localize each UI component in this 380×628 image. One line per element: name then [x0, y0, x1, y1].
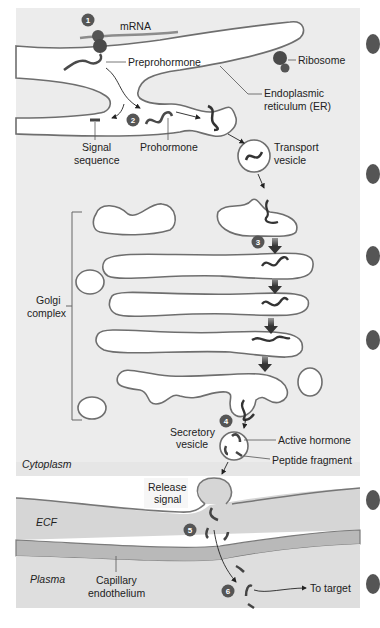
step-2-badge: 2: [131, 116, 136, 125]
step-3-badge: 3: [256, 238, 261, 247]
label-secretory-line2: vesicle: [176, 438, 208, 450]
cropped-marker-2: [366, 164, 380, 184]
step-5-badge: 5: [188, 526, 193, 535]
label-cytoplasm: Cytoplasm: [22, 458, 72, 470]
label-plasma: Plasma: [30, 573, 65, 585]
label-peptide-fragment: Peptide fragment: [272, 454, 352, 466]
secretory-vesicle: [220, 432, 248, 460]
step-1-badge: 1: [86, 16, 91, 25]
label-signal-line2: sequence: [74, 154, 120, 166]
exocytosis-vesicle: [197, 478, 231, 504]
label-ribosome: Ribosome: [298, 54, 345, 66]
label-capillary-line2: endothelium: [88, 587, 145, 599]
label-mrna: mRNA: [120, 20, 151, 32]
cropped-marker-6: [366, 574, 380, 594]
label-golgi-line2: complex: [27, 307, 67, 319]
label-capillary-line1: Capillary: [96, 574, 138, 586]
label-er-line2: reticulum (ER): [264, 100, 331, 112]
label-release-line2: signal: [154, 493, 181, 505]
label-secretory-line1: Secretory: [170, 426, 216, 438]
cropped-marker-1: [366, 34, 380, 54]
label-golgi-line1: Golgi: [36, 294, 61, 306]
label-ecf: ECF: [36, 516, 58, 528]
label-transport-line1: Transport: [274, 141, 319, 153]
label-transport-line2: vesicle: [274, 154, 306, 166]
label-preprohormone: Preprohormone: [128, 56, 201, 68]
label-release-line1: Release: [148, 481, 187, 493]
label-er-line1: Endoplasmic: [264, 87, 324, 99]
cropped-marker-4: [366, 330, 380, 350]
step-4-badge: 4: [224, 417, 229, 426]
label-active-hormone: Active hormone: [278, 434, 351, 446]
label-signal-line1: Signal: [82, 141, 111, 153]
cropped-marker-3: [366, 246, 380, 266]
label-prohormone: Prohormone: [140, 141, 198, 153]
cropped-marker-5: [366, 490, 380, 510]
step-6-badge: 6: [226, 587, 231, 596]
label-to-target: To target: [310, 582, 351, 594]
